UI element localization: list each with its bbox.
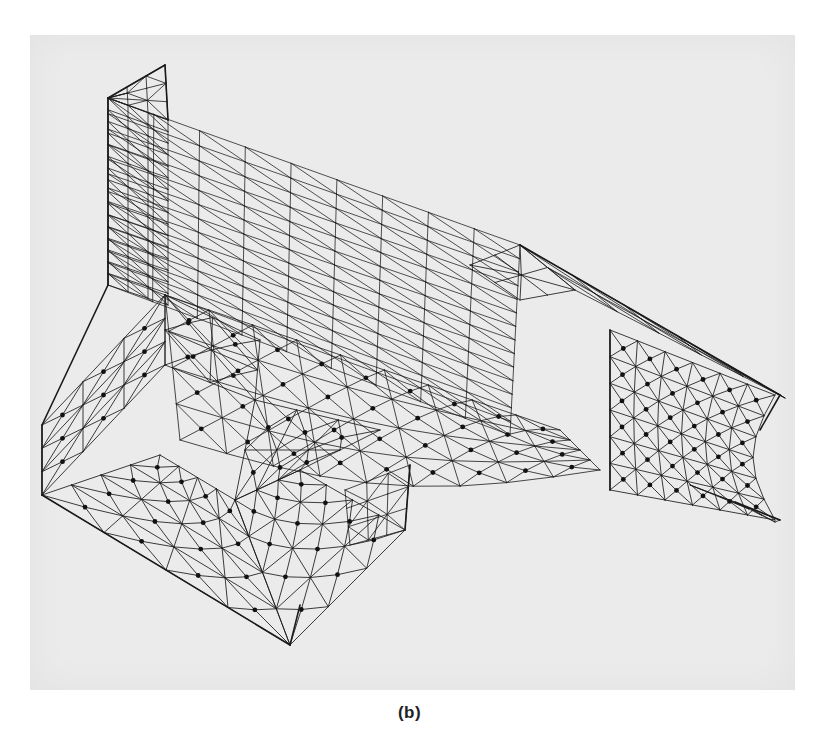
mesh-edge: [301, 484, 326, 485]
mesh-edge: [297, 410, 339, 420]
mesh-node: [648, 357, 653, 362]
mesh-edge: [535, 442, 553, 446]
mesh-edge: [243, 287, 288, 303]
mesh-node: [754, 504, 759, 509]
mesh-edge: [424, 323, 469, 352]
mesh-edge: [738, 384, 747, 406]
mesh-edge: [333, 318, 378, 334]
mesh-edge: [418, 418, 445, 435]
mesh-edge: [474, 229, 520, 245]
mesh-node: [240, 404, 245, 409]
mesh-edge: [373, 399, 392, 408]
mesh-edge: [222, 544, 238, 548]
mesh-edge: [323, 524, 345, 546]
mesh-edge: [463, 427, 490, 441]
mesh-edge: [293, 548, 311, 577]
mesh-node: [267, 542, 272, 547]
mesh-edge: [225, 578, 228, 608]
mesh-edge: [470, 325, 515, 354]
mesh-edge: [300, 484, 301, 502]
mesh-edge: [377, 347, 421, 376]
mesh-edge: [418, 410, 437, 418]
mesh-edge: [108, 114, 154, 130]
mesh-edge: [334, 278, 379, 307]
mesh-edge: [333, 331, 378, 360]
mesh-node: [550, 439, 555, 444]
mesh-edge: [108, 227, 153, 255]
mesh-edge: [377, 359, 422, 375]
mesh-edge: [634, 418, 635, 444]
mesh-edge: [479, 462, 498, 473]
mesh-node: [303, 430, 308, 435]
mesh-edge: [289, 263, 334, 278]
mesh-node: [674, 488, 679, 493]
mesh-edge: [249, 511, 254, 536]
mesh-edge: [548, 268, 576, 291]
mesh-edge: [303, 364, 322, 374]
mesh-edge: [426, 268, 427, 282]
mesh-edge: [683, 386, 687, 410]
mesh-node: [716, 454, 721, 459]
mesh-edge: [326, 485, 352, 500]
mesh-edge: [278, 470, 300, 480]
mesh-edge: [380, 267, 425, 296]
mesh-edge: [108, 110, 128, 129]
mesh-node: [716, 432, 721, 437]
mesh-edge: [553, 440, 571, 442]
mesh-node: [295, 521, 300, 526]
mesh-edge: [310, 575, 337, 578]
mesh-edge: [244, 248, 289, 277]
mesh-edge: [160, 466, 179, 483]
mesh-edge: [290, 222, 336, 238]
mesh-edge: [72, 475, 102, 485]
mesh-edge: [198, 283, 243, 299]
mesh-edge: [253, 473, 256, 491]
mesh-edge: [247, 577, 277, 609]
mesh-edge: [526, 461, 545, 470]
mesh-edge: [713, 396, 723, 412]
mesh-edge: [659, 401, 683, 410]
mesh-edge: [108, 98, 154, 130]
mesh-edge: [72, 485, 123, 516]
mesh-edge: [154, 130, 200, 146]
mesh-edge: [510, 421, 511, 435]
mesh-edge: [255, 400, 297, 410]
mesh-edge: [520, 275, 521, 300]
mesh-edge: [444, 427, 463, 436]
mesh-edge: [128, 280, 148, 298]
mesh-edge: [190, 478, 198, 501]
mesh-edge: [243, 299, 288, 315]
mesh-edge: [729, 450, 731, 472]
mesh-outline-edge: [405, 465, 410, 530]
mesh-edge: [199, 161, 244, 192]
mesh-edge: [174, 547, 225, 578]
mesh-edge: [498, 461, 544, 462]
mesh-edge: [248, 431, 269, 442]
mesh-edge: [636, 359, 650, 367]
mesh-edge: [300, 502, 322, 524]
mesh-edge: [148, 194, 168, 201]
mesh-edge: [705, 442, 707, 465]
mesh-node: [251, 509, 256, 514]
mesh-edge: [249, 536, 270, 544]
mesh-edge: [379, 294, 424, 309]
mesh-edge: [276, 577, 285, 609]
mesh-edge: [425, 296, 470, 311]
mesh-edge: [634, 444, 635, 470]
mesh-edge: [469, 338, 470, 352]
mesh-edge: [188, 323, 211, 350]
mesh-edge: [166, 547, 174, 570]
mesh-edge: [520, 295, 548, 300]
mesh-edge: [298, 502, 301, 523]
mesh-edge: [406, 445, 425, 457]
mesh-edge: [544, 454, 562, 461]
mesh-edge: [289, 276, 334, 291]
mesh-edge: [268, 431, 273, 466]
mesh-edge: [249, 536, 263, 572]
mesh-node: [319, 362, 324, 367]
mesh-edge: [179, 466, 198, 477]
mesh-edge: [276, 609, 301, 610]
mesh-edge: [124, 295, 165, 338]
mesh-edge: [387, 514, 405, 530]
mesh-node: [621, 346, 626, 351]
